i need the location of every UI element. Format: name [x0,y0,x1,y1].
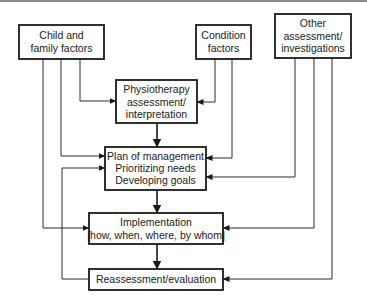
node-child-family-factors: Child and family factors [19,25,104,59]
node-implementation: Implementation [how, when, where, by who… [87,213,225,244]
node-label: factors [208,42,240,54]
edge-child-to-plan [61,59,105,156]
node-label: Prioritizing needs [115,162,196,174]
edge-condition-to-plan [206,59,232,158]
node-label: family factors [31,42,93,54]
flowchart: Child and family factors Condition facto… [0,0,367,305]
edge-child-to-physiotherapy [80,59,116,101]
node-label: Reassessment/evaluation [96,273,216,285]
node-label: Implementation [120,216,192,228]
node-label: Other [300,17,327,29]
edge-condition-to-physiotherapy [197,59,215,102]
node-label: [how, when, where, by whom] [87,229,225,241]
node-condition-factors: Condition factors [196,25,251,59]
edge-other-to-plan [206,58,295,177]
node-label: Child and [39,29,84,41]
node-other-assessment: Other assessment/ investigations [275,14,351,58]
edge-other-to-implementation [223,58,314,228]
node-label: assessment/ [284,30,343,42]
node-physiotherapy-assessment: Physiotherapy assessment/ interpretation [116,80,197,123]
edge-child-to-implementation [43,59,89,228]
node-label: Physiotherapy [123,83,190,95]
node-reassessment-evaluation: Reassessment/evaluation [89,269,223,290]
node-label: Condition [201,29,246,41]
node-label: Developing goals [115,174,196,186]
node-label: interpretation [126,108,187,120]
node-plan-of-management: Plan of management Prioritizing needs De… [105,147,206,190]
edge-reassessment-other-bidirectional [223,58,332,279]
node-label: assessment/ [127,96,186,108]
node-label: Plan of management [107,150,204,162]
node-label: investigations [281,42,345,54]
